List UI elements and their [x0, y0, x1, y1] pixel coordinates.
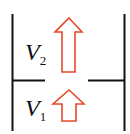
large-up-arrow-icon — [55, 18, 82, 72]
label-v2: V2 — [25, 40, 46, 67]
small-up-arrow-icon — [53, 90, 84, 121]
diagram-canvas — [0, 0, 130, 134]
v1-subscript: 1 — [40, 109, 47, 124]
v1-symbol: V — [25, 95, 40, 121]
v2-subscript: 2 — [40, 53, 47, 68]
label-v1: V1 — [25, 96, 46, 123]
v2-symbol: V — [25, 39, 40, 65]
